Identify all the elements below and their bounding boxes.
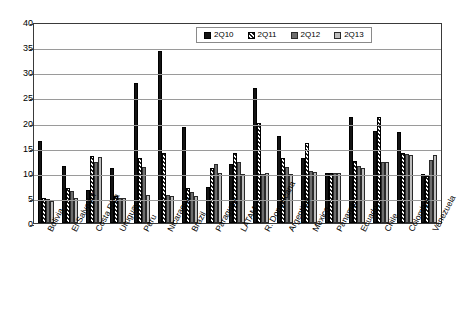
x-axis-labels: BoliviaEl SalvadorCosta RicaUruguayPeruN… <box>33 226 442 312</box>
gridline <box>34 150 441 151</box>
y-tick-label: 5 <box>9 194 33 203</box>
x-tick: Venezuela <box>418 226 442 312</box>
x-tick: LATAM <box>226 226 250 312</box>
legend-item: 2Q13 <box>334 31 364 39</box>
bar-group <box>297 24 321 223</box>
bar <box>409 155 413 223</box>
bar-group <box>321 24 345 223</box>
bar-group <box>369 24 393 223</box>
x-tick: Argentina <box>274 226 298 312</box>
legend-swatch-icon <box>334 32 341 39</box>
legend-item: 2Q11 <box>248 31 277 39</box>
y-tick-label: 40 <box>9 19 33 28</box>
x-tick: Chile <box>370 226 394 312</box>
x-tick: El Salvador <box>57 226 81 312</box>
gridline <box>34 74 441 75</box>
bar-group <box>154 24 178 223</box>
legend-label: 2Q13 <box>344 31 364 39</box>
x-tick: Mexico <box>298 226 322 312</box>
y-axis: 0510152025303540 <box>0 0 33 225</box>
gridline <box>34 175 441 176</box>
x-tick: Nicaragua <box>153 226 177 312</box>
x-tick: Peru <box>129 226 153 312</box>
x-tick: Panamá <box>322 226 346 312</box>
bar <box>433 155 437 223</box>
x-tick: Costa Rica <box>81 226 105 312</box>
bar-group <box>345 24 369 223</box>
y-tick-label: 10 <box>9 169 33 178</box>
bar-group <box>58 24 82 223</box>
legend-item: 2Q12 <box>291 31 321 39</box>
bar-group <box>178 24 202 223</box>
gridline <box>34 49 441 50</box>
y-tick-label: 25 <box>9 94 33 103</box>
legend-swatch-icon <box>204 32 211 39</box>
bar-group <box>202 24 226 223</box>
x-tick: Uruguay <box>105 226 129 312</box>
bar-group <box>417 24 441 223</box>
bar-group <box>130 24 154 223</box>
y-tick-label: 0 <box>9 220 33 229</box>
legend-swatch-icon <box>291 32 298 39</box>
bar-group <box>226 24 250 223</box>
y-tick-label: 15 <box>9 144 33 153</box>
bar-group <box>249 24 273 223</box>
y-tick-label: 20 <box>9 119 33 128</box>
x-tick: Paraguay <box>201 226 225 312</box>
legend-swatch-icon <box>248 32 255 39</box>
y-tick-mark <box>30 24 34 25</box>
legend-label: 2Q10 <box>214 31 234 39</box>
bar-group <box>393 24 417 223</box>
x-tick: Colombia <box>394 226 418 312</box>
legend-label: 2Q11 <box>258 31 277 39</box>
x-tick: Brazil <box>177 226 201 312</box>
x-tick: R. Dominicana <box>250 226 274 312</box>
x-tick: Bolivia <box>33 226 57 312</box>
x-tick: Ecuador <box>346 226 370 312</box>
y-tick-label: 30 <box>9 69 33 78</box>
bar-group <box>34 24 58 223</box>
legend-label: 2Q12 <box>301 31 321 39</box>
chart-legend: 2Q102Q112Q122Q13 <box>196 27 372 43</box>
legend-item: 2Q10 <box>204 31 234 39</box>
gridline <box>34 125 441 126</box>
y-tick-label: 35 <box>9 44 33 53</box>
gridline <box>34 99 441 100</box>
